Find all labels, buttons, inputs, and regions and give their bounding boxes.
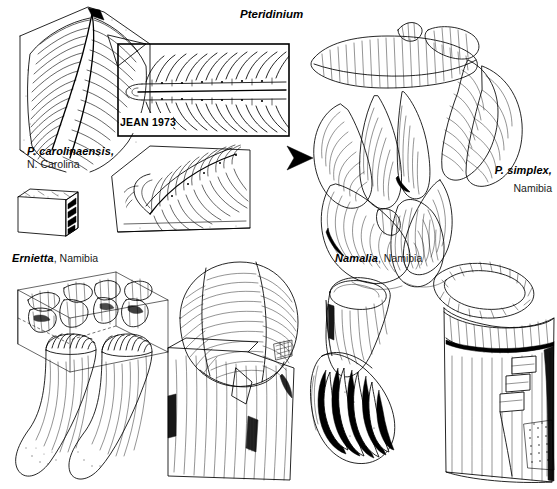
ernietta-sediment-box: [16, 272, 168, 479]
locality-text-ernietta: , Namibia: [54, 252, 98, 264]
label-p-simplex: P. simplex, Namibia: [418, 160, 552, 197]
rock-block-sample: [18, 189, 78, 236]
ernietta-body-right: [69, 334, 152, 479]
ernietta-body-left: [16, 334, 96, 476]
transition-arrow[interactable]: [287, 146, 313, 170]
locality-text-namalia: , Namibia: [378, 252, 422, 264]
species-name-namalia: Namalia: [335, 252, 378, 264]
ernietta-large-specimen: [168, 262, 298, 480]
locality-text-carolina: N. Carolina: [27, 158, 80, 170]
figure-canvas: Pteridinium JEAN 1973 P. carolinaensis, …: [0, 0, 557, 489]
panel-title-pteridinium: Pteridinium: [240, 8, 303, 21]
fossil-slab-lower-vane: [112, 143, 254, 240]
locality-text-simplex: Namibia: [513, 182, 552, 194]
illustration-artwork: [0, 0, 557, 489]
pteridinium-simplex-reconstruction: [311, 23, 522, 290]
inset-leader-triangle: [108, 35, 146, 66]
jean-1973-caption: JEAN 1973: [120, 116, 176, 128]
namalia-specimen-left: [310, 278, 394, 464]
label-ernietta: Ernietta, Namibia: [12, 252, 98, 264]
species-name-simplex: P. simplex,: [495, 164, 552, 176]
locality-n-carolina: N. Carolina: [27, 154, 80, 172]
namalia-specimen-right: [434, 262, 554, 483]
species-name-ernietta: Ernietta: [12, 252, 54, 264]
label-namalia: Namalia, Namibia: [335, 252, 422, 264]
